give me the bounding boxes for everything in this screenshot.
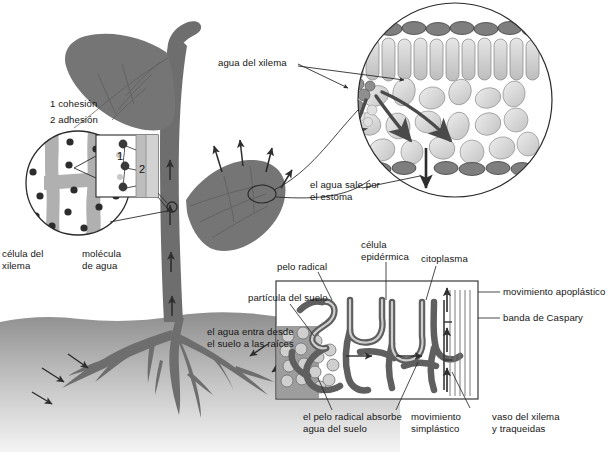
label-symplastic-movement: movimiento simplástico: [411, 411, 461, 435]
label-water-exits-stoma: el agua sale por el estoma: [310, 179, 380, 203]
label-water-molecule: molécula de agua: [82, 248, 121, 272]
diagram-canvas: 1 cohesión 2 adhesión 1 2 célula del xil…: [0, 0, 613, 452]
label-root-hair: pelo radical: [277, 261, 327, 273]
label-apoplastic-movement: movimiento apoplástico: [503, 286, 605, 298]
label-cytoplasm: citoplasma: [421, 253, 468, 265]
plant-water-transport-illustration: [0, 0, 613, 452]
leaf-cross-section: [248, 3, 552, 203]
inset-number-2: 2: [139, 163, 145, 175]
label-root-hair-absorbs: el pelo radical absorbe agua del suelo: [303, 411, 402, 435]
label-xylem-vessel: vaso del xilema y traqueidas: [492, 411, 560, 435]
upper-epidermis: [330, 22, 546, 37]
label-xylem-water: agua del xilema: [218, 57, 287, 69]
inset-number-1: 1: [117, 150, 123, 162]
label-xylem-cell: célula del xilema: [2, 248, 44, 272]
adhesion-key-line2: 2 adhesión: [50, 114, 98, 126]
label-water-enters: el agua entra desde el suelo a las raíce…: [207, 326, 294, 350]
label-casparian-strip: banda de Caspary: [503, 312, 583, 324]
cohesion-key-line1: 1 cohesión: [50, 98, 97, 110]
label-soil-particle: partícula del suelo: [248, 292, 328, 304]
leaf-right: [186, 160, 285, 251]
label-epidermal-cell: célula epidérmica: [361, 239, 409, 263]
